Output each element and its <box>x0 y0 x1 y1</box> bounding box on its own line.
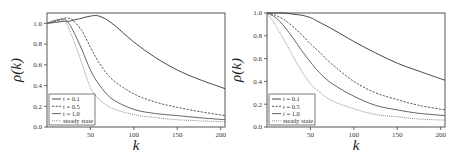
chart-right: 0.00.20.40.60.81.050100150200kρ(k)t = 0.… <box>232 0 464 154</box>
series-line <box>267 13 445 80</box>
y-axis-label: ρ(k) <box>232 58 245 83</box>
y-tick-label: 0.6 <box>33 61 42 69</box>
y-tick-label: 1.0 <box>33 20 42 28</box>
chart-right-plot: 0.00.20.40.60.81.050100150200kρ(k)t = 0.… <box>232 0 465 154</box>
chart-left: 0.00.20.40.60.81.050100150200kρ(k)t = 0.… <box>0 0 232 154</box>
x-tick-label: 150 <box>392 131 403 139</box>
x-tick-label: 150 <box>172 131 183 139</box>
y-tick-label: 0.0 <box>33 123 42 131</box>
legend-label: t = 0.1 <box>283 95 300 102</box>
x-tick-label: 50 <box>307 131 315 139</box>
legend-label: t = 0.5 <box>283 103 300 110</box>
y-tick-label: 0.6 <box>253 55 262 63</box>
y-tick-label: 0.4 <box>253 78 262 86</box>
legend-label: steady state <box>283 117 313 124</box>
x-tick-label: 50 <box>87 131 95 139</box>
y-axis-label: ρ(k) <box>8 58 25 83</box>
y-tick-label: 0.2 <box>253 101 262 109</box>
legend-label: t = 0.5 <box>63 103 80 110</box>
x-tick-label: 200 <box>435 131 446 139</box>
series-line <box>47 15 225 88</box>
y-tick-label: 0.2 <box>33 103 42 111</box>
y-tick-label: 0.0 <box>253 123 262 131</box>
y-tick-label: 0.4 <box>33 82 42 90</box>
legend-label: t = 0.1 <box>63 95 80 102</box>
y-tick-label: 1.0 <box>253 9 262 17</box>
x-axis-label: k <box>133 137 140 153</box>
y-tick-label: 0.8 <box>33 40 42 48</box>
chart-left-plot: 0.00.20.40.60.81.050100150200kρ(k)t = 0.… <box>0 0 232 154</box>
legend-label: t = 1.0 <box>283 110 300 117</box>
x-axis-label: k <box>353 137 360 153</box>
y-tick-label: 0.8 <box>253 32 262 40</box>
x-tick-label: 200 <box>215 131 226 139</box>
legend-label: t = 1.0 <box>63 110 80 117</box>
legend-label: steady state <box>63 117 93 124</box>
